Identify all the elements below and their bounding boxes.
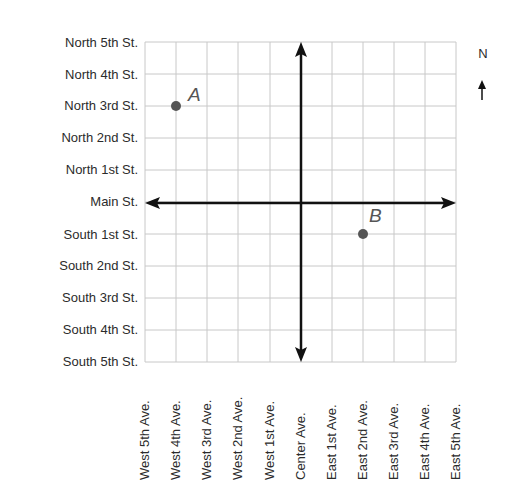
point-b — [358, 229, 368, 239]
avenue-label: East 3rd Ave. — [386, 403, 402, 480]
avenue-label: West 5th Ave. — [137, 400, 153, 480]
avenue-label: West 4th Ave. — [168, 400, 184, 480]
avenue-label: West 2nd Ave. — [230, 397, 246, 480]
avenue-label: East 5th Ave. — [448, 404, 464, 480]
avenue-label: West 3rd Ave. — [199, 400, 215, 480]
north-arrow-icon — [478, 80, 486, 100]
avenue-label: West 1st Ave. — [262, 401, 278, 480]
street-grid — [0, 0, 512, 498]
point-b-label: B — [369, 205, 382, 227]
avenue-label: East 1st Ave. — [324, 404, 340, 480]
compass-label: N — [476, 46, 490, 61]
point-a-label: A — [188, 84, 201, 106]
point-a — [171, 101, 181, 111]
avenue-label: East 4th Ave. — [417, 404, 433, 480]
avenue-label: Center Ave. — [293, 412, 309, 480]
avenue-label: East 2nd Ave. — [355, 400, 371, 480]
